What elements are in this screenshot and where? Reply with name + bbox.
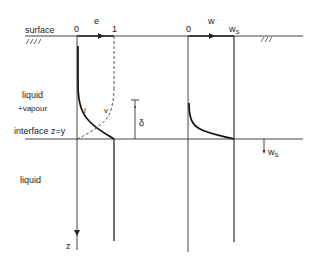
liquid-bottom-label: liquid (20, 175, 41, 185)
z-axis-label: z (66, 241, 71, 251)
w-zero-label: 0 (186, 24, 191, 34)
z-axis-arrow-icon (74, 230, 80, 236)
delta-label: δ (139, 118, 144, 128)
surface-label: surface (25, 25, 55, 35)
delta-arrow-icon (134, 106, 136, 109)
surface-hatch-left (26, 39, 41, 44)
curve-w (189, 103, 234, 139)
liquid-vapour-label-1: liquid (22, 90, 43, 100)
e-zero-label: 0 (74, 24, 79, 34)
curve-v-label: v (104, 106, 108, 115)
w-s-velocity-arrow-icon (263, 150, 266, 154)
w-s-top-label: wS (228, 24, 240, 35)
curve-l (78, 46, 114, 139)
e-axis-label: e (94, 16, 99, 26)
curve-v (77, 88, 114, 139)
w-axis-arrow-icon (209, 33, 215, 39)
curve-l-label: l (84, 106, 86, 115)
liquid-vapour-label-2: +vapour (18, 104, 47, 113)
interface-label: interface z=y (14, 126, 66, 136)
w-axis-label: w (207, 16, 215, 26)
surface-hatch-right (261, 37, 272, 42)
e-axis-arrow-icon (98, 33, 104, 39)
w-s-top-subscript: S (236, 29, 240, 35)
e-one-label: 1 (112, 24, 117, 34)
w-s-arrow-subscript: S (275, 152, 279, 158)
w-s-arrow-label: wS (267, 147, 279, 158)
phase-profile-diagram: surface liquid +vapour interface z=y liq… (0, 0, 313, 263)
